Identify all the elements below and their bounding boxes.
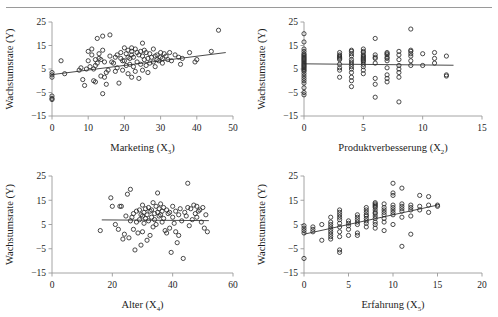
scatter-point	[137, 76, 141, 80]
y-tick-label: 15	[37, 41, 47, 51]
scatter-point	[204, 213, 208, 217]
scatter-point	[142, 221, 146, 225]
scatter-point	[397, 58, 401, 62]
scatter-point	[432, 56, 436, 60]
y-tick-label: −15	[31, 111, 46, 121]
scatter-point	[155, 191, 159, 195]
y-axis-label: Wachstumsrate (Y)	[256, 28, 268, 110]
y-axis-label: Wachstumsrate (Y)	[4, 183, 16, 265]
scatter-point	[140, 68, 144, 72]
scatter-point	[104, 82, 108, 86]
x-tick-label: 0	[302, 280, 307, 290]
scatter-points	[50, 28, 221, 102]
scatter-point	[171, 204, 175, 208]
x-tick-label: 30	[156, 123, 166, 133]
y-tick-label: 5	[293, 220, 298, 230]
scatter-point	[126, 72, 130, 76]
scatter-point	[117, 81, 121, 85]
y-tick-label: −5	[288, 244, 298, 254]
x-tick-label: 5	[361, 123, 366, 133]
scatter-point	[320, 238, 324, 242]
x-tick-label: 15	[477, 123, 487, 133]
scatter-point	[382, 228, 386, 232]
scatter-point	[110, 204, 114, 208]
scatter-point	[98, 228, 102, 232]
trendline	[304, 64, 454, 65]
x-axis-label: Marketing (X3)	[110, 142, 175, 155]
y-tick-label: 25	[289, 17, 299, 27]
scatter-point	[172, 221, 176, 225]
x-tick-label: 10	[83, 123, 93, 133]
scatter-point	[400, 215, 404, 219]
x-tick-label: 40	[168, 280, 178, 290]
scatter-point	[409, 59, 413, 63]
scatter-point	[139, 62, 143, 66]
scatter-point	[177, 213, 181, 217]
y-axis-label: Wachstumsrate (Y)	[4, 28, 16, 110]
y-tick-label: 5	[293, 64, 298, 74]
scatter-point	[130, 75, 134, 79]
scatter-point	[177, 233, 181, 237]
scatter-point	[427, 195, 431, 199]
y-tick-label: −5	[36, 244, 46, 254]
scatter-point	[216, 28, 220, 32]
scatter-point	[184, 214, 188, 218]
x-tick-label: 60	[228, 280, 238, 290]
scatter-point	[102, 60, 106, 64]
x-tick-label: 50	[228, 123, 238, 133]
scatter-point	[124, 214, 128, 218]
y-tick-label: −15	[283, 268, 298, 278]
scatter-point	[432, 50, 436, 54]
x-tick-label: 10	[388, 280, 398, 290]
scatter-point	[349, 85, 353, 89]
x-tick-label: 0	[302, 123, 307, 133]
scatter-point	[409, 27, 413, 31]
scatter-point	[373, 95, 377, 99]
scatter-point	[82, 83, 86, 87]
y-tick-label: 15	[289, 196, 299, 206]
scatter-point	[338, 230, 342, 234]
scatter-point	[153, 65, 157, 69]
scatter-point	[187, 50, 191, 54]
scatter-point	[174, 230, 178, 234]
y-tick-label: 15	[289, 41, 299, 51]
scatter-point	[181, 256, 185, 260]
y-tick-label: −15	[283, 111, 298, 121]
scatter-point	[391, 222, 395, 226]
scatter-point	[178, 207, 182, 211]
scatter-point	[201, 205, 205, 209]
scatter-point	[171, 215, 175, 219]
scatter-point	[373, 82, 377, 86]
scatter-point	[90, 53, 94, 57]
x-axis-label: Erfahrung (X5)	[361, 299, 425, 312]
scatter-point	[373, 76, 377, 80]
scatter-point	[391, 181, 395, 185]
scatter-point	[146, 219, 150, 223]
scatter-point	[195, 215, 199, 219]
scatter-point	[409, 232, 413, 236]
scatter-point	[131, 227, 135, 231]
scatter-point	[148, 233, 152, 237]
x-tick-label: 0	[50, 280, 55, 290]
scatter-point	[168, 226, 172, 230]
scatter-point	[145, 213, 149, 217]
scatter-point	[145, 238, 149, 242]
scatter-points	[302, 181, 440, 260]
scatter-point	[136, 231, 140, 235]
scatter-point	[397, 75, 401, 79]
scatter-point	[421, 63, 425, 67]
scatter-point	[108, 54, 112, 58]
scatter-point	[187, 224, 191, 228]
scatter-panel-bottom-right: −15−55152505101520Erfahrung (X5)Wachstum…	[252, 162, 498, 317]
trendline	[102, 220, 209, 221]
scatter-point	[175, 241, 179, 245]
y-axis-label: Wachstumsrate (Y)	[256, 183, 268, 265]
scatter-point	[427, 210, 431, 214]
x-tick-label: 5	[346, 280, 351, 290]
x-tick-label: 20	[477, 280, 487, 290]
scatter-point	[131, 65, 135, 69]
x-tick-label: 0	[50, 123, 55, 133]
scatter-point	[397, 100, 401, 104]
scatter-point	[444, 54, 448, 58]
scatter-point	[202, 226, 206, 230]
